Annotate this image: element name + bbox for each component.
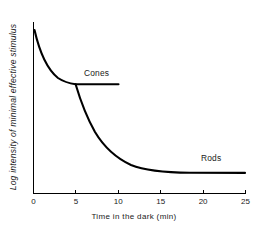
- dark-adaptation-chart: 0 5 10 15 20 25 Time in the dark (min) L…: [0, 0, 261, 231]
- chart-canvas: 0 5 10 15 20 25 Time in the dark (min) L…: [0, 0, 261, 231]
- x-tick-label-15: 15: [156, 197, 165, 206]
- x-tick-label-25: 25: [241, 197, 250, 206]
- x-tick-label-20: 20: [199, 197, 208, 206]
- x-tick-label-10: 10: [114, 197, 123, 206]
- x-axis-title: Time in the dark (min): [91, 212, 176, 221]
- cones-series-label: Cones: [84, 68, 109, 78]
- x-tick-label-5: 5: [74, 197, 79, 206]
- y-axis-title: Log intensity of minimal effective stimu…: [8, 23, 18, 190]
- rods-series-label: Rods: [201, 153, 221, 163]
- x-tick-label-0: 0: [31, 197, 36, 206]
